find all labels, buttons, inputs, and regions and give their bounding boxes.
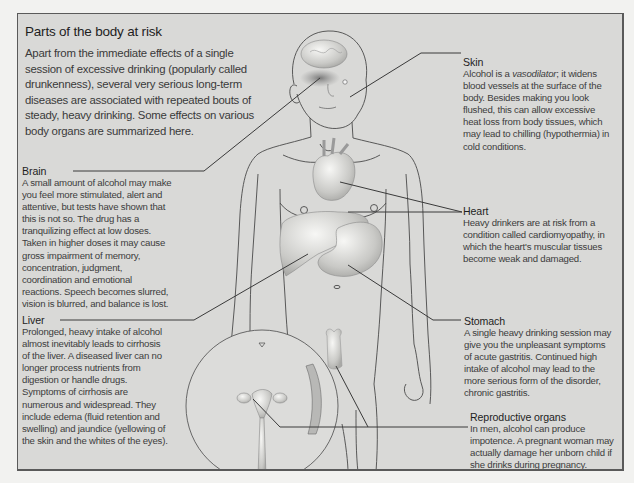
page-title: Parts of the body at risk [25,24,162,39]
callout-body: Heavy drinkers are at risk from a condit… [463,217,613,265]
female-reproductive-inset [186,330,338,471]
brain-organ [301,40,347,68]
callout-heading: Reproductive organs [470,411,618,423]
callout-heading: Heart [463,205,613,217]
page: Parts of the body at risk Apart from the… [0,0,634,483]
intro-text: Apart from the immediate effects of a si… [25,46,265,139]
callout-body: A single heavy drinking session may give… [464,327,614,400]
callout-body: Prolonged, heavy intake of alcohol almos… [22,326,170,447]
callout-body: A small amount of alcohol may make you f… [22,177,172,310]
callout-body-text: Alcohol is a [463,68,512,79]
heart-organ [313,138,355,200]
callout-body-text: ; it widens blood vessels at the surface… [463,68,609,152]
body-risk-panel: Parts of the body at risk Apart from the… [17,13,624,471]
callout-body-term: vasodilator [512,68,556,79]
callout-reproductive-organs: Reproductive organs In men, alcohol can … [470,411,618,471]
callout-heading: Stomach [464,315,614,327]
callout-heading: Brain [22,165,172,177]
callout-heart: Heart Heavy drinkers are at risk from a … [463,205,613,265]
male-reproductive-organ [326,329,342,369]
callout-heading: Liver [22,314,170,326]
callout-body: In men, alcohol can produce impotence. A… [470,423,618,471]
callout-liver: Liver Prolonged, heavy intake of alcohol… [22,314,170,447]
callout-body: Alcohol is a vasodilator; it widens bloo… [463,68,613,153]
callout-heading: Skin [463,56,613,68]
callout-stomach: Stomach A single heavy drinking session … [464,315,614,400]
callout-skin: Skin Alcohol is a vasodilator; it widens… [463,56,613,153]
callout-brain: Brain A small amount of alcohol may make… [22,165,172,310]
